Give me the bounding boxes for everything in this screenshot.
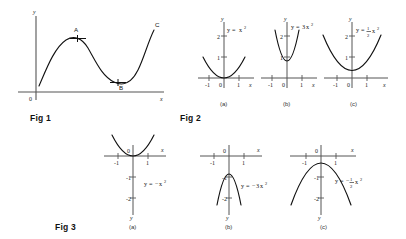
- fig3a-x-axis-label: x: [160, 147, 164, 153]
- fig2a-y-axis-label: y: [220, 16, 224, 22]
- fig3b-caption: (b): [225, 224, 232, 230]
- fig2a-origin-label: 0: [219, 82, 222, 88]
- fig3c-eq-exp: 2: [360, 177, 362, 182]
- fig2c-eq-numerator: 1: [367, 26, 370, 31]
- fig2b-xtick-label-1: 1: [300, 82, 303, 88]
- fig2b-origin-label: 0: [282, 82, 285, 88]
- fig3a-eq-exp: 2: [164, 179, 166, 184]
- fig3b-eq-var: x: [260, 182, 264, 189]
- fig3b-eq-coef: 3: [256, 182, 259, 189]
- fig3b-xtick-label-1: 1: [242, 160, 245, 166]
- fig2a-x-axis-label: x: [248, 82, 252, 88]
- fig3c-plot: -1 -2 -1 1 0 y x y = − 1 2 x 2: [288, 143, 368, 221]
- fig1-label-c: C: [155, 21, 160, 28]
- fig2b-x-axis-label: x: [311, 82, 315, 88]
- fig2a-ytick-label-2: 2: [217, 34, 220, 40]
- fig2c-ytick-label-2: 2: [345, 34, 348, 40]
- fig1-x-axis-label: x: [159, 96, 163, 102]
- fig3c-xtick-label-1: 1: [334, 160, 337, 166]
- fig3a-plot: -1 -2 -1 1 0 y x y = − x 2: [100, 143, 172, 221]
- fig1-panel: A B C y x 0: [14, 8, 169, 108]
- fig3b-plot: -1 -2 -1 1 0 y x y = − 3 x 2: [196, 143, 268, 221]
- fig3b-eq-exp: 2: [265, 181, 267, 186]
- fig1-plot: A B C y x 0: [14, 8, 169, 108]
- fig2c-y-axis-label: y: [348, 16, 352, 22]
- fig3c-eq-denominator: 2: [350, 184, 353, 189]
- fig2c-eq-denominator: 2: [367, 33, 370, 38]
- fig3c-eq-sign: =: [340, 177, 344, 184]
- fig2a-eq-sign: =: [232, 26, 236, 33]
- fig2b-eq-exp: 2: [311, 22, 313, 27]
- fig3c-caption: (c): [320, 224, 327, 230]
- fig2a-eq-var: x: [239, 26, 243, 33]
- fig2b-plot: 1 2 -1 1 0 y x y = 3 x 2: [259, 16, 321, 98]
- fig3a-xtick-label-1: 1: [146, 160, 149, 166]
- fig2b-ytick-label-2: 2: [280, 34, 283, 40]
- fig3a-ytick-label-neg2: -2: [126, 196, 131, 202]
- fig2b-eq-var: x: [306, 23, 310, 30]
- fig3a-panel: -1 -2 -1 1 0 y x y = − x 2: [100, 143, 172, 221]
- fig2b-ytick-label-1: 1: [280, 55, 283, 61]
- fig2b-equation: y = 3 x 2: [291, 22, 313, 30]
- fig2c-xtick-label-1: 1: [365, 82, 368, 88]
- fig3b-panel: -1 -2 -1 1 0 y x y = − 3 x 2: [196, 143, 268, 221]
- fig2a-xtick-label-1: 1: [237, 82, 240, 88]
- fig2a-ytick-label-1: 1: [217, 55, 220, 61]
- fig3b-x-axis-label: x: [256, 147, 260, 153]
- fig3a-xtick-label-neg1: -1: [114, 160, 119, 166]
- fig2c-plot: 1 2 -1 1 0 y x y = 1 2 x 2: [322, 16, 394, 98]
- fig3a-origin-label: 0: [127, 148, 130, 154]
- fig2a-eq-exp: 2: [244, 25, 246, 30]
- fig2c-x-axis-label: x: [382, 82, 386, 88]
- fig2b-eq-sign: =: [296, 23, 300, 30]
- fig3a-ytick-label-neg1: -1: [126, 175, 131, 181]
- fig2b-caption: (b): [283, 101, 290, 107]
- fig2a-panel: 1 2 -1 1 0 y x y = x 2: [196, 16, 258, 98]
- fig2c-caption: (c): [350, 101, 357, 107]
- fig3c-eq-var: x: [355, 178, 359, 185]
- fig3a-y-axis-label: y: [129, 215, 133, 221]
- fig2a-plot: 1 2 -1 1 0 y x y = x 2: [196, 16, 258, 98]
- fig3c-ytick-label-neg1: -1: [314, 175, 319, 181]
- fig3b-ytick-label-neg1: -1: [222, 175, 227, 181]
- fig2a-equation: y = x 2: [227, 25, 246, 33]
- fig2b-eq-coef: 3: [302, 23, 305, 30]
- fig3c-origin-label: 0: [315, 148, 318, 154]
- fig1-label-a: A: [74, 26, 79, 33]
- fig1-origin-label: 0: [29, 96, 32, 102]
- fig2b-xtick-label-neg1: -1: [268, 82, 273, 88]
- fig2c-panel: 1 2 -1 1 0 y x y = 1 2 x 2: [322, 16, 394, 98]
- fig2b-panel: 1 2 -1 1 0 y x y = 3 x 2: [259, 16, 321, 98]
- fig2c-xtick-label-neg1: -1: [333, 82, 338, 88]
- fig2c-eq-var: x: [372, 27, 376, 34]
- figure-sheet: A B C y x 0 Fig 1 1 2 -1 1 0 y: [0, 0, 406, 239]
- fig2c-eq-lhs: y: [356, 26, 360, 33]
- fig2b-eq-lhs: y: [291, 23, 295, 30]
- fig3c-panel: -1 -2 -1 1 0 y x y = − 1 2 x 2: [288, 143, 368, 221]
- fig2c-eq-sign: =: [361, 26, 365, 33]
- fig3c-ytick-label-neg2: -2: [314, 196, 319, 202]
- fig3c-y-axis-label: y: [317, 215, 321, 221]
- fig3b-eq-lhs: y: [241, 182, 245, 189]
- fig1-label-b: B: [119, 84, 123, 91]
- fig3-caption: Fig 3: [55, 222, 76, 232]
- fig3b-eq-sign: =: [246, 182, 250, 189]
- fig2c-ytick-label-1: 1: [345, 55, 348, 61]
- fig2a-xtick-label-neg1: -1: [205, 82, 210, 88]
- fig3a-equation: y = − x 2: [144, 179, 166, 187]
- fig3c-eq-numerator: 1: [350, 177, 353, 182]
- fig1-y-axis-label: y: [32, 9, 36, 15]
- fig3b-ytick-label-neg2: -2: [222, 196, 227, 202]
- fig2c-origin-label: 0: [347, 82, 350, 88]
- fig2b-y-axis-label: y: [283, 16, 287, 22]
- fig3a-eq-sign: =: [149, 180, 153, 187]
- fig3a-eq-var: x: [159, 180, 163, 187]
- fig2a-eq-lhs: y: [227, 26, 231, 33]
- fig1-curve: [39, 30, 154, 86]
- fig3c-equation: y = − 1 2 x 2: [335, 177, 362, 189]
- fig3b-xtick-label-neg1: -1: [210, 160, 215, 166]
- fig3c-xtick-label-neg1: -1: [302, 160, 307, 166]
- fig3a-caption: (a): [129, 224, 136, 230]
- fig3b-y-axis-label: y: [225, 215, 229, 221]
- fig1-caption: Fig 1: [30, 113, 51, 123]
